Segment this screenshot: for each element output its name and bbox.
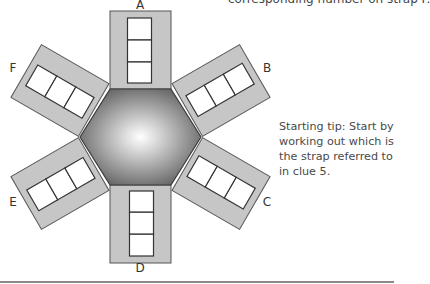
strap-label-b: B: [263, 61, 271, 75]
starting-tip: Starting tip: Start by working out which…: [279, 119, 397, 179]
strap-label-f: F: [10, 61, 17, 75]
strap-a: [110, 11, 171, 89]
page-divider: [0, 281, 394, 283]
central-hexagon: [80, 89, 201, 185]
strap-label-d: D: [135, 261, 144, 275]
strap-label-a: A: [136, 0, 145, 12]
strap-d: [110, 185, 171, 263]
strap-label-c: C: [263, 195, 271, 209]
strap-label-e: E: [9, 195, 17, 209]
